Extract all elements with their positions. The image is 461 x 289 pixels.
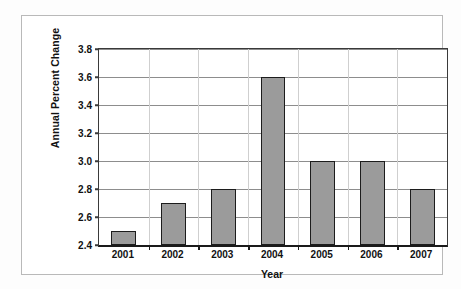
vertical-gridline (348, 49, 349, 245)
x-tick-label: 2001 (112, 249, 134, 260)
y-tick-label: 2.6 (78, 212, 92, 223)
y-tick-mark (95, 216, 99, 218)
x-axis-title: Year (98, 268, 446, 280)
vertical-gridline (397, 49, 398, 245)
x-tick-label: 2004 (261, 249, 283, 260)
x-tick-mark (397, 245, 399, 250)
bar (310, 161, 335, 245)
x-tick-label: 2002 (161, 249, 183, 260)
x-tick-label: 2005 (311, 249, 333, 260)
chart-figure: Annual Percent Change 2.42.62.83.03.23.4… (0, 0, 461, 289)
x-tick-mark (149, 245, 151, 250)
bar (410, 189, 435, 245)
bar (261, 77, 286, 245)
y-tick-label: 2.4 (78, 240, 92, 251)
y-tick-label: 3.6 (78, 72, 92, 83)
bar (161, 203, 186, 245)
x-tick-mark (348, 245, 350, 250)
vertical-gridline (149, 49, 150, 245)
y-axis-title: Annual Percent Change (49, 3, 69, 173)
y-tick-mark (95, 76, 99, 78)
bar (111, 231, 136, 245)
plot-area: 2.42.62.83.03.23.43.63.8 (98, 48, 448, 247)
y-tick-label: 3.8 (78, 44, 92, 55)
bar (211, 189, 236, 245)
x-tick-label: 2007 (410, 249, 432, 260)
vertical-gridline (198, 49, 199, 245)
gridline (99, 49, 447, 50)
x-tick-mark (198, 245, 200, 250)
y-tick-mark (95, 160, 99, 162)
y-tick-mark (95, 244, 99, 246)
y-tick-label: 3.4 (78, 100, 92, 111)
y-tick-mark (95, 132, 99, 134)
bar (360, 161, 385, 245)
y-tick-mark (95, 48, 99, 50)
x-tick-mark (298, 245, 300, 250)
y-tick-mark (95, 188, 99, 190)
x-tick-mark (248, 245, 250, 250)
x-tick-label: 2003 (211, 249, 233, 260)
vertical-gridline (248, 49, 249, 245)
y-tick-label: 3.0 (78, 156, 92, 167)
y-tick-mark (95, 104, 99, 106)
y-tick-label: 3.2 (78, 128, 92, 139)
chart-frame: Annual Percent Change 2.42.62.83.03.23.4… (21, 15, 443, 275)
y-tick-label: 2.8 (78, 184, 92, 195)
x-tick-label: 2006 (360, 249, 382, 260)
vertical-gridline (298, 49, 299, 245)
